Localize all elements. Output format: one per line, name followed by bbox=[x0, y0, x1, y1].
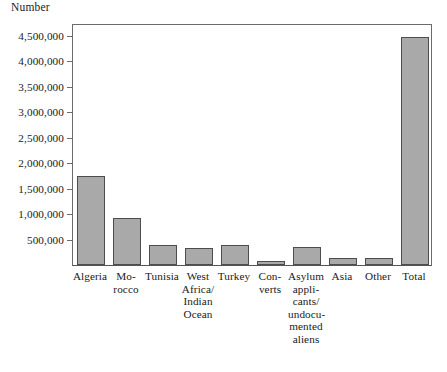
y-axis-tick-label: 4,500,000 bbox=[18, 30, 64, 42]
y-axis-tick-label: 3,500,000 bbox=[18, 81, 64, 93]
y-axis-tick-label: 4,000,000 bbox=[18, 55, 64, 67]
x-axis-label-line: Africa/ bbox=[180, 283, 216, 296]
bar-10 bbox=[401, 37, 430, 265]
plot-area: 500,0001,000,0001,500,0002,000,0002,500,… bbox=[72, 24, 432, 266]
y-axis-tick-label: 1,000,000 bbox=[18, 208, 64, 220]
bar-1 bbox=[77, 176, 106, 265]
x-axis-label-line: rocco bbox=[108, 283, 144, 296]
bar-7 bbox=[293, 247, 322, 265]
x-axis-label-line: Tunisia bbox=[144, 270, 180, 283]
x-axis-label-6: Con-verts bbox=[252, 270, 288, 295]
y-axis-tick-label: 500,000 bbox=[27, 234, 64, 246]
bar-6 bbox=[257, 261, 286, 265]
x-axis-label-line: Other bbox=[360, 270, 396, 283]
x-axis-label-10: Total bbox=[396, 270, 432, 283]
bar-2 bbox=[113, 218, 142, 265]
x-axis-label-line: aliens bbox=[288, 333, 324, 346]
x-axis-label-2: Mo-rocco bbox=[108, 270, 144, 295]
x-axis-label-line: undocu- bbox=[288, 308, 324, 321]
x-axis-label-line: Mo- bbox=[108, 270, 144, 283]
x-axis-label-line: cants/ bbox=[288, 295, 324, 308]
y-axis-tick-label: 2,500,000 bbox=[18, 132, 64, 144]
x-axis-label-5: Turkey bbox=[216, 270, 252, 283]
x-axis-label-4: WestAfrica/IndianOcean bbox=[180, 270, 216, 320]
x-axis-label-line: appli- bbox=[288, 283, 324, 296]
y-axis-title: Number bbox=[11, 1, 50, 13]
bars-layer bbox=[73, 25, 431, 265]
x-axis-label-line: Con- bbox=[252, 270, 288, 283]
x-axis-label-1: Algeria bbox=[72, 270, 108, 283]
x-axis-label-line: West bbox=[180, 270, 216, 283]
y-axis-tick-label: 1,500,000 bbox=[18, 183, 64, 195]
x-axis-label-line: Ocean bbox=[180, 308, 216, 321]
x-axis-label-8: Asia bbox=[324, 270, 360, 283]
bar-9 bbox=[365, 258, 394, 265]
x-axis-label-3: Tunisia bbox=[144, 270, 180, 283]
bar-8 bbox=[329, 258, 358, 265]
x-axis-label-7: Asylumappli-cants/undocu-mentedaliens bbox=[288, 270, 324, 346]
bar-4 bbox=[185, 248, 214, 265]
y-axis-tick-label: 3,000,000 bbox=[18, 106, 64, 118]
x-axis-label-line: Turkey bbox=[216, 270, 252, 283]
x-axis-label-line: Indian bbox=[180, 295, 216, 308]
y-axis-tick-label: 2,000,000 bbox=[18, 157, 64, 169]
x-axis-labels: AlgeriaMo-roccoTunisiaWestAfrica/IndianO… bbox=[72, 270, 432, 366]
x-axis-label-line: Asia bbox=[324, 270, 360, 283]
bar-chart-figure: Number 500,0001,000,0001,500,0002,000,00… bbox=[0, 0, 447, 372]
x-axis-label-line: verts bbox=[252, 283, 288, 296]
x-axis-label-line: Total bbox=[396, 270, 432, 283]
x-axis-label-line: Asylum bbox=[288, 270, 324, 283]
x-axis-label-line: mented bbox=[288, 320, 324, 333]
bar-5 bbox=[221, 245, 250, 265]
bar-3 bbox=[149, 245, 178, 265]
x-axis-label-9: Other bbox=[360, 270, 396, 283]
x-axis-label-line: Algeria bbox=[72, 270, 108, 283]
